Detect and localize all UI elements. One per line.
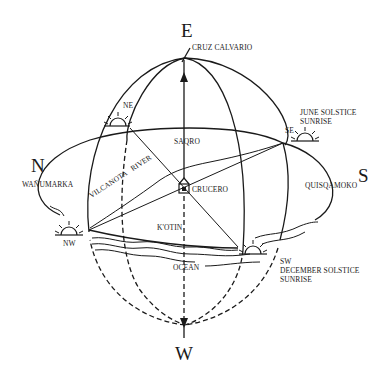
outer-sphere-lower-right-dashed <box>185 248 278 325</box>
ocean-wave-3 <box>95 250 195 262</box>
label-ocean: OCEAN <box>173 264 199 272</box>
ocean-wave-4 <box>205 262 260 266</box>
label-south: S <box>358 166 369 185</box>
ocean-wave-right-2 <box>262 232 305 244</box>
diagonal-nw-se <box>89 143 283 230</box>
label-june-solstice-2: SUNRISE <box>300 118 332 126</box>
label-se: SE <box>285 127 294 135</box>
cruz-calvario-cross <box>182 48 190 62</box>
sun-icon-se <box>291 127 319 141</box>
sun-icon-nw <box>55 221 83 235</box>
label-north: N <box>31 156 45 175</box>
label-crucero: CRUCERO <box>192 186 228 194</box>
label-east: E <box>181 21 193 40</box>
label-sw: SW <box>280 258 291 266</box>
label-june-solstice-1: JUNE SOLSTICE <box>300 109 357 117</box>
ocean-wave-1 <box>92 238 238 251</box>
label-ne: NE <box>123 102 133 110</box>
label-saqro: SAQRO <box>174 138 200 146</box>
label-quisqamoko: QUISQAMOKO <box>305 182 357 190</box>
axis-arrow-up <box>180 72 188 82</box>
label-december-solstice-1: DECEMBER SOLSTICE <box>280 267 359 275</box>
horizon-ellipse-back <box>38 128 283 215</box>
inner-meridian-right-dashed <box>185 250 243 325</box>
label-nw: NW <box>63 240 76 248</box>
label-cruz-calvario: CRUZ CALVARIO <box>192 44 252 52</box>
outer-sphere-right <box>280 143 288 240</box>
ocean-wave-right-1 <box>255 222 318 238</box>
outer-sphere-lower-left-dashed <box>90 240 185 325</box>
label-west: W <box>175 344 193 363</box>
label-december-solstice-2: SUNRISE <box>280 276 312 284</box>
label-wanumarka: WAÑUMARKA <box>22 181 73 189</box>
label-kotin: K'OTIN <box>157 224 182 232</box>
